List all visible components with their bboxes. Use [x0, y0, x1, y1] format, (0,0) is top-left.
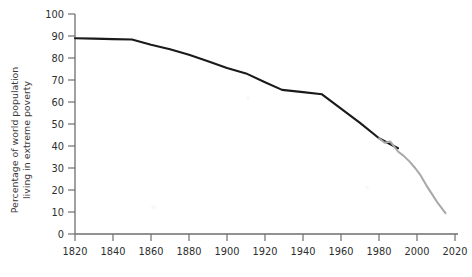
x-tick-label-1940: 1940	[291, 246, 316, 257]
x-tick-label-1880: 1880	[177, 246, 202, 257]
x-tick-label-1840: 1840	[101, 246, 126, 257]
y-tick-label-70: 70	[52, 75, 64, 86]
chart-svg: Percentage of world population living in…	[0, 0, 472, 277]
x-tick-label-1960: 1960	[329, 246, 354, 257]
series-line-historical-estimate	[75, 38, 398, 148]
poverty-line-chart: Percentage of world population living in…	[0, 0, 472, 277]
x-tick-label-1980: 1980	[367, 246, 392, 257]
x-tick-label-1860: 1860	[139, 246, 164, 257]
x-tick-label-1820: 1820	[63, 246, 88, 257]
y-tick-label-50: 50	[52, 119, 64, 130]
paper-speck	[246, 96, 250, 100]
y-tick-label-0: 0	[58, 229, 64, 240]
x-axis-ticks: 1820 1840 1860 1880 1900 1920 1940 1960 …	[63, 234, 468, 257]
y-tick-label-40: 40	[52, 141, 64, 152]
y-axis-ticks: 100 90 80 70 60 50 40 30 20 10 0	[45, 9, 75, 240]
x-tick-label-2000: 2000	[405, 246, 430, 257]
y-tick-label-80: 80	[52, 53, 64, 64]
x-tick-label-1900: 1900	[215, 246, 240, 257]
y-tick-label-100: 100	[45, 9, 64, 20]
y-axis-label-line2: living in extreme poverty	[21, 81, 32, 199]
paper-speck	[151, 205, 156, 209]
y-tick-label-30: 30	[52, 163, 64, 174]
y-tick-label-90: 90	[52, 31, 64, 42]
x-tick-label-1920: 1920	[253, 246, 278, 257]
paper-speck	[62, 212, 68, 215]
series-line-recent-estimate	[379, 138, 446, 213]
y-tick-label-60: 60	[52, 97, 64, 108]
paper-speck	[365, 186, 369, 189]
y-axis-label: Percentage of world population living in…	[9, 67, 32, 213]
x-tick-label-2020: 2020	[443, 246, 468, 257]
y-tick-label-20: 20	[52, 185, 64, 196]
y-axis-label-line1: Percentage of world population	[9, 67, 20, 213]
